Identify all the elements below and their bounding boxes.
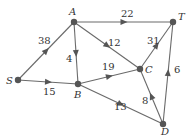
labels-layer: 38154221219133186SABCDT bbox=[6, 6, 186, 137]
edge-weight-label: 38 bbox=[38, 35, 51, 46]
node-label: S bbox=[6, 75, 13, 86]
arrow-icon bbox=[165, 69, 172, 77]
edge-weight-label: 13 bbox=[114, 101, 127, 112]
node-label: A bbox=[68, 6, 76, 17]
arrow-icon bbox=[105, 73, 113, 80]
edge-weight-label: 8 bbox=[142, 95, 148, 106]
edge-weight-label: 15 bbox=[43, 86, 56, 97]
directed-graph-diagram: 38154221219133186SABCDT bbox=[0, 0, 190, 137]
node-label: B bbox=[73, 89, 81, 100]
edge-weight-label: 6 bbox=[174, 64, 180, 75]
edge-weight-label: 12 bbox=[108, 37, 121, 48]
arrow-icon bbox=[73, 50, 79, 57]
edge-weight-label: 31 bbox=[147, 35, 160, 46]
arrow-icon bbox=[147, 92, 155, 101]
arrow-icon bbox=[121, 19, 128, 25]
node-t bbox=[170, 19, 176, 25]
edge-weight-label: 19 bbox=[102, 61, 115, 72]
arrow-icon bbox=[45, 79, 52, 85]
node-c bbox=[137, 66, 143, 72]
node-b bbox=[75, 81, 81, 87]
node-label: D bbox=[160, 126, 169, 137]
node-a bbox=[71, 19, 77, 25]
node-label: C bbox=[145, 64, 153, 75]
node-label: T bbox=[178, 11, 186, 22]
edge-weight-label: 22 bbox=[121, 8, 134, 19]
node-s bbox=[15, 77, 21, 83]
edge-weight-label: 4 bbox=[66, 53, 72, 64]
